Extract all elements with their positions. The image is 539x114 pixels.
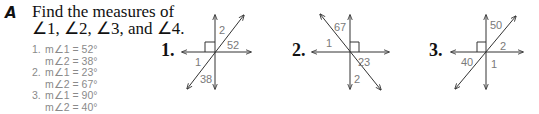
right-angle-mark: [350, 42, 359, 52]
diagram-1: [182, 15, 251, 89]
angle-label: 1: [195, 56, 201, 68]
angle-label: 23: [358, 56, 370, 68]
angle-label: 40: [461, 56, 473, 68]
angle-label: 1: [491, 58, 497, 70]
right-angle-mark: [205, 42, 215, 52]
angle-label: 38: [200, 73, 212, 85]
angle-label: 50: [490, 19, 502, 31]
angle-label: 2: [500, 40, 506, 52]
angle-label: 2: [219, 24, 225, 36]
angle-label: 2: [354, 73, 360, 85]
diagram-2: [312, 14, 389, 90]
diagram-3: [451, 15, 523, 89]
angle-label: 67: [334, 21, 346, 33]
angle-diagrams: 2 52 1 38 67 1 23 2 50 2 40 1: [0, 0, 539, 114]
angle-label: 1: [326, 37, 332, 49]
right-angle-mark: [477, 42, 486, 52]
angle-label: 52: [227, 39, 239, 51]
